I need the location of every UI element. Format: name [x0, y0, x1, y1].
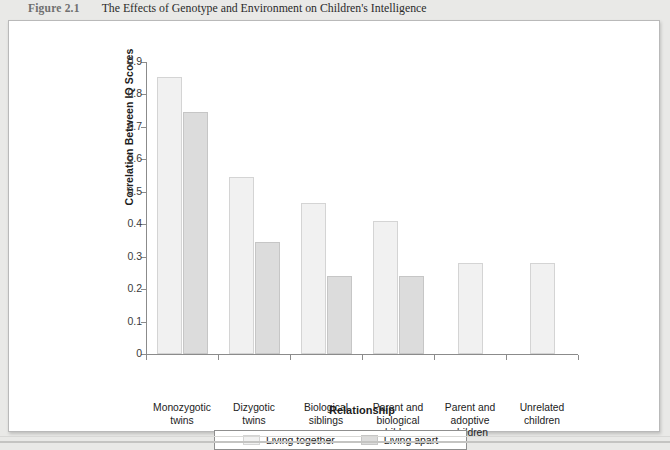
chart-legend: Living together Living apart	[214, 430, 467, 450]
x-axis-category-label: Unrelatedchildren	[506, 402, 578, 427]
x-axis-tick-mark	[218, 355, 219, 360]
bar-group	[434, 62, 506, 354]
bar	[458, 263, 483, 354]
y-axis-tick-label: 0.9	[127, 55, 142, 68]
category-label-line: Unrelated	[506, 402, 578, 415]
x-axis-category-label: Dizygotictwins	[218, 402, 290, 427]
plot-area: 00.10.20.30.40.50.60.70.80.9 Monozygotic…	[146, 62, 578, 354]
figure-panel: Correlation Between IQ Scores Relationsh…	[8, 20, 660, 432]
y-axis-tick-label: 0.1	[127, 315, 142, 328]
bar	[183, 112, 208, 354]
x-axis-tick-mark	[578, 355, 579, 360]
bar	[157, 77, 182, 354]
x-axis-tick-mark	[290, 355, 291, 360]
bar	[399, 276, 424, 354]
x-axis-tick-mark	[362, 355, 363, 360]
category-label-line: children	[506, 415, 578, 428]
bar-group	[362, 62, 434, 354]
category-label-line: Biological	[290, 402, 362, 415]
category-label-line: Dizygotic	[218, 402, 290, 415]
x-axis-tick-mark	[434, 355, 435, 360]
category-label-line: Monozygotic	[146, 402, 218, 415]
y-axis-tick-label: 0.2	[127, 282, 142, 295]
bar	[327, 276, 352, 354]
y-axis-tick-label: 0.8	[127, 87, 142, 100]
bar	[229, 177, 254, 354]
category-label-line: Parent and	[434, 402, 506, 415]
bar-group	[146, 62, 218, 354]
bar	[373, 221, 398, 354]
category-label-line: twins	[146, 415, 218, 428]
bar	[255, 242, 280, 354]
x-axis-tick-mark	[146, 355, 147, 360]
category-label-line: twins	[218, 415, 290, 428]
x-axis-category-label: Monozygotictwins	[146, 402, 218, 427]
page-edge-highlight	[0, 436, 670, 437]
x-axis-tick-mark	[506, 355, 507, 360]
category-label-line: siblings	[290, 415, 362, 428]
y-axis-tick-label: 0	[136, 347, 142, 360]
bar-group	[290, 62, 362, 354]
category-label-line: biological	[362, 415, 434, 428]
y-axis-tick-label: 0.3	[127, 250, 142, 263]
figure-caption-bar: Figure 2.1 The Effects of Genotype and E…	[0, 0, 670, 16]
figure-number-label: Figure 2.1	[28, 2, 80, 14]
page-edge-shadow	[0, 441, 670, 443]
bar-group	[218, 62, 290, 354]
y-axis-tick-label: 0.7	[127, 120, 142, 133]
bar-group	[506, 62, 578, 354]
bar	[530, 263, 555, 354]
y-axis-tick-label: 0.5	[127, 185, 142, 198]
y-axis-tick-label: 0.4	[127, 217, 142, 230]
x-axis-category-label: Biologicalsiblings	[290, 402, 362, 427]
category-label-line: Parent and	[362, 402, 434, 415]
category-label-line: adoptive	[434, 415, 506, 428]
bar	[301, 203, 326, 354]
figure-caption-title: The Effects of Genotype and Environment …	[102, 1, 427, 16]
y-axis-tick-label: 0.6	[127, 152, 142, 165]
